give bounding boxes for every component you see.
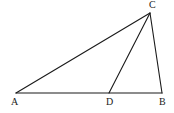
segment-bc xyxy=(150,13,162,93)
label-c: C xyxy=(149,0,156,10)
label-a: A xyxy=(11,96,19,107)
label-b: B xyxy=(159,96,166,107)
triangle-diagram: A D B C xyxy=(0,0,174,113)
label-d: D xyxy=(106,96,113,107)
